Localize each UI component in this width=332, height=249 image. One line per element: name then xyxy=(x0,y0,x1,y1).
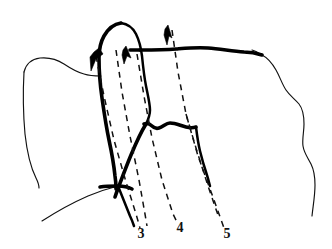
line-diagram: 3 4 5 xyxy=(0,0,332,249)
figure-container: 3 4 5 xyxy=(0,0,332,249)
label-5: 5 xyxy=(224,226,231,241)
label-3: 3 xyxy=(138,226,145,241)
label-4: 4 xyxy=(177,220,184,235)
